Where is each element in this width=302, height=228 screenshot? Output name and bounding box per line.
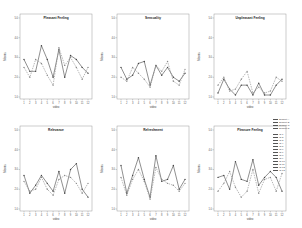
data-point [47,59,48,60]
y-tick-label: 5.0 [14,16,18,20]
data-point [70,169,71,170]
y-tick-label: 2.0 [111,187,115,191]
data-point [275,191,276,192]
data-point [120,177,121,178]
data-point [229,171,230,172]
x-tick-label: 10 [75,213,78,217]
legend-swatch [273,158,278,159]
data-point [64,175,65,176]
data-point [132,179,133,180]
data-point [155,155,156,156]
y-tick-label: 1.0 [111,207,115,211]
data-point [173,165,174,166]
y-tick-label: 2.0 [14,187,18,191]
x-axis-label: video [53,105,60,109]
data-point [70,177,71,178]
y-tick-label: 4.0 [111,36,115,40]
data-point [144,79,145,80]
x-tick-label: 10 [75,101,78,105]
x-tick-label: 3 [229,213,231,217]
data-point [264,92,265,93]
x-tick-label: 4 [235,213,237,217]
data-point [52,84,53,85]
x-tick-label: 6 [149,213,151,217]
data-point [270,177,271,178]
data-point [173,185,174,186]
data-point [87,196,88,197]
x-tick-label: 2 [29,213,31,217]
data-point [35,189,36,190]
data-point [252,159,253,160]
data-point [229,189,230,190]
data-point [173,77,174,78]
x-tick-label: 3 [132,213,134,217]
data-point [138,73,139,74]
chart-title: Relevance [48,128,64,132]
x-tick-label: 5 [47,101,49,105]
y-tick-label: 5.0 [111,16,115,20]
plot-area [117,126,189,211]
data-point [235,88,236,89]
y-tick-label: 1.0 [208,95,212,99]
data-point [52,191,53,192]
data-point [178,191,179,192]
data-point [58,47,59,48]
x-tick-label: 11 [81,101,84,105]
data-point [41,175,42,176]
data-point [120,77,121,78]
y-tick-label: 2.0 [208,75,212,79]
chart-panel-refreshment: Refreshment1.02.03.04.05.012345678910111… [97,114,194,226]
data-point [138,169,139,170]
legend-swatch [273,143,278,144]
x-tick-label: 9 [264,101,266,105]
x-tick-label: 7 [58,213,60,217]
data-point [126,81,127,82]
data-point [52,77,53,78]
data-point [223,175,224,176]
data-point [41,63,42,64]
data-point [281,173,282,174]
data-point [144,181,145,182]
data-point [41,177,42,178]
chart-title: Pleasure Feeling [237,128,262,132]
data-point [275,77,276,78]
data-point [241,79,242,80]
x-tick-label: 7 [252,101,254,105]
y-tick-label: 4.0 [208,148,212,152]
data-point [120,165,121,166]
data-point [246,191,247,192]
x-tick-label: 8 [161,213,163,217]
chart-panel-pleasant-feeling: Pleasant Feeling1.02.03.04.05.0123456789… [0,2,97,114]
x-axis-label: video [247,217,254,221]
x-tick-label: 9 [70,101,72,105]
chart-panel-sensuality: Sensuality1.02.03.04.05.0123456789101112… [97,2,194,114]
data-point [161,179,162,180]
data-point [275,84,276,85]
y-tick-label: 3.0 [111,167,115,171]
y-tick-label: 4.0 [111,148,115,152]
x-tick-label: 10 [269,213,272,217]
data-point [47,183,48,184]
x-axis-label: video [150,217,157,221]
x-tick-label: 12 [87,213,90,217]
y-tick-label: 1.0 [208,207,212,211]
data-point [47,75,48,76]
data-point [64,193,65,194]
y-axis-label: Means [197,52,201,61]
x-tick-label: 8 [64,213,66,217]
data-point [70,55,71,56]
legend-swatch [273,155,278,156]
x-tick-label: 1 [23,213,25,217]
data-point [35,59,36,60]
data-point [29,191,30,192]
data-point [223,183,224,184]
data-point [149,86,150,87]
data-point [23,59,24,60]
data-point [76,59,77,60]
x-tick-label: 8 [161,101,163,105]
x-tick-label: 8 [258,101,260,105]
data-point [241,84,242,85]
chart-panel-relevance: Relevance1.02.03.04.05.0123456789101112v… [0,114,97,226]
y-tick-label: 3.0 [14,167,18,171]
data-point [149,198,150,199]
